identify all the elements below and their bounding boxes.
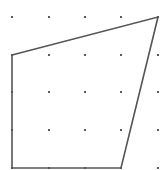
grid-dot	[120, 54, 122, 56]
grid-dot	[84, 91, 86, 93]
grid-dot	[84, 129, 86, 131]
grid-dot	[120, 129, 122, 131]
grid-dots	[11, 16, 159, 169]
grid-dot	[48, 129, 50, 131]
grid-dot	[157, 91, 159, 93]
grid-dot	[11, 16, 13, 18]
grid-dot	[120, 91, 122, 93]
grid-dot	[120, 16, 122, 18]
grid-dot	[84, 16, 86, 18]
grid-dot	[48, 91, 50, 93]
grid-dot	[48, 54, 50, 56]
grid-dot	[157, 54, 159, 56]
grid-dot	[157, 129, 159, 131]
dot-grid-diagram	[0, 0, 166, 170]
grid-dot	[48, 16, 50, 18]
grid-dot	[157, 167, 159, 169]
grid-dot	[84, 54, 86, 56]
